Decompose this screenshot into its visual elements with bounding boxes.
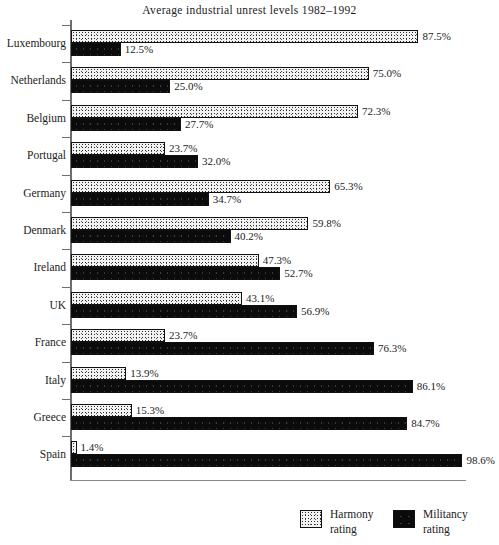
bar-value-label: 1.4% — [77, 441, 104, 454]
bar-harmony[interactable] — [71, 67, 369, 80]
axis-tick — [62, 362, 71, 363]
bar-value-label: 47.3% — [259, 254, 291, 267]
category-row: Spain1.4%98.6% — [0, 441, 499, 467]
bar-value-label: 86.1% — [413, 380, 445, 393]
category-row: Portugal23.7%32.0% — [0, 142, 499, 168]
bar-militancy[interactable] — [71, 305, 297, 318]
bar-value-label: 43.1% — [242, 292, 274, 305]
bar-harmony[interactable] — [71, 180, 330, 193]
bar-harmony[interactable] — [71, 254, 259, 267]
axis-tick — [62, 287, 71, 288]
bar-fill — [71, 305, 297, 318]
bar-fill — [71, 193, 209, 206]
bar-militancy[interactable] — [71, 80, 170, 93]
legend-swatch-harmony — [300, 510, 322, 528]
axis-tick — [62, 175, 71, 176]
bar-fill — [71, 230, 231, 243]
bar-harmony[interactable] — [71, 30, 418, 43]
bar-value-label: 87.5% — [418, 30, 450, 43]
bar-value-label: 59.8% — [308, 217, 340, 230]
bar-fill — [71, 105, 358, 118]
axis-tick — [62, 100, 71, 101]
bar-value-label: 12.5% — [121, 43, 153, 56]
category-row: Germany65.3%34.7% — [0, 180, 499, 206]
bar-fill — [71, 254, 259, 267]
bar-value-label: 34.7% — [209, 193, 241, 206]
bar-fill — [71, 404, 132, 417]
x-axis-line — [70, 480, 466, 481]
category-label-netherlands: Netherlands — [0, 74, 66, 86]
bar-fill — [71, 267, 280, 280]
category-label-greece: Greece — [0, 411, 66, 423]
bar-militancy[interactable] — [71, 380, 413, 393]
category-row: Greece15.3%84.7% — [0, 404, 499, 430]
bar-harmony[interactable] — [71, 105, 358, 118]
bar-harmony[interactable] — [71, 217, 308, 230]
category-label-luxembourg: Luxembourg — [0, 37, 66, 49]
axis-tick — [62, 137, 71, 138]
bar-militancy[interactable] — [71, 454, 462, 467]
category-row: UK43.1%56.9% — [0, 292, 499, 318]
bar-fill — [71, 155, 198, 168]
legend-label: Militancyrating — [423, 507, 468, 537]
category-row: France23.7%76.3% — [0, 329, 499, 355]
axis-tick — [62, 62, 71, 63]
bar-fill — [71, 80, 170, 93]
category-row: Denmark59.8%40.2% — [0, 217, 499, 243]
bar-fill — [71, 342, 374, 355]
bar-harmony[interactable] — [71, 142, 165, 155]
legend-swatch-militancy — [393, 510, 415, 528]
bar-militancy[interactable] — [71, 155, 198, 168]
bar-militancy[interactable] — [71, 230, 231, 243]
bar-value-label: 23.7% — [165, 142, 197, 155]
bar-militancy[interactable] — [71, 118, 181, 131]
axis-tick — [62, 212, 71, 213]
category-label-ireland: Ireland — [0, 261, 66, 273]
bar-value-label: 27.7% — [181, 118, 213, 131]
bar-fill — [71, 142, 165, 155]
category-label-spain: Spain — [0, 448, 66, 460]
category-label-italy: Italy — [0, 374, 66, 386]
category-label-germany: Germany — [0, 187, 66, 199]
plot-area: Luxembourg87.5%12.5%Netherlands75.0%25.0… — [0, 0, 499, 500]
bar-harmony[interactable] — [71, 292, 242, 305]
bar-value-label: 76.3% — [374, 342, 406, 355]
bar-value-label: 65.3% — [330, 180, 362, 193]
bar-value-label: 98.6% — [462, 454, 494, 467]
bar-fill — [71, 217, 308, 230]
bar-harmony[interactable] — [71, 367, 126, 380]
bar-value-label: 32.0% — [198, 155, 230, 168]
bar-value-label: 25.0% — [170, 80, 202, 93]
bar-militancy[interactable] — [71, 267, 280, 280]
bar-harmony[interactable] — [71, 404, 132, 417]
bar-fill — [71, 67, 369, 80]
axis-tick — [62, 25, 71, 26]
axis-tick — [62, 249, 71, 250]
bar-value-label: 40.2% — [231, 230, 263, 243]
bar-militancy[interactable] — [71, 417, 407, 430]
category-label-denmark: Denmark — [0, 224, 66, 236]
bar-harmony[interactable] — [71, 329, 165, 342]
bar-militancy[interactable] — [71, 43, 121, 56]
bar-militancy[interactable] — [71, 193, 209, 206]
bar-fill — [71, 417, 407, 430]
legend-label: Harmonyrating — [330, 507, 373, 537]
bar-fill — [71, 380, 413, 393]
bar-fill — [71, 292, 242, 305]
bar-militancy[interactable] — [71, 342, 374, 355]
category-row: Ireland47.3%52.7% — [0, 254, 499, 280]
bar-value-label: 56.9% — [297, 305, 329, 318]
category-label-belgium: Belgium — [0, 112, 66, 124]
bar-value-label: 84.7% — [407, 417, 439, 430]
bar-fill — [71, 180, 330, 193]
category-label-portugal: Portugal — [0, 149, 66, 161]
category-row: Italy13.9%86.1% — [0, 367, 499, 393]
category-label-uk: UK — [0, 299, 66, 311]
category-row: Luxembourg87.5%12.5% — [0, 30, 499, 56]
axis-tick — [62, 399, 71, 400]
bar-fill — [71, 43, 121, 56]
bar-fill — [71, 118, 181, 131]
bar-fill — [71, 30, 418, 43]
bar-value-label: 13.9% — [126, 367, 158, 380]
bar-value-label: 52.7% — [280, 267, 312, 280]
